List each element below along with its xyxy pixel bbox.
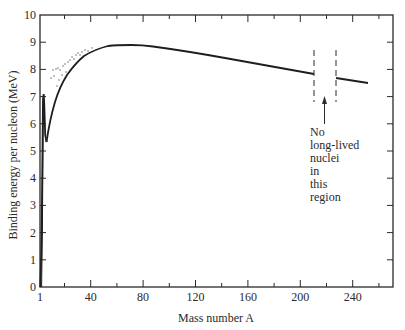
no-nuclei-region-markers — [314, 50, 336, 102]
x-tick-label: 120 — [187, 290, 205, 304]
y-tick-label: 9 — [30, 35, 36, 49]
y-tick-label: 0 — [30, 280, 36, 294]
x-tick-label: 40 — [85, 290, 97, 304]
y-tick-label: 8 — [30, 62, 36, 76]
annotation-line: No — [310, 125, 325, 139]
x-tick-label: 240 — [344, 290, 362, 304]
x-tick-label: 200 — [291, 290, 309, 304]
y-axis-title: Binding energy per nucleon (MeV) — [6, 70, 20, 239]
annotation-line: this — [310, 177, 328, 191]
annotation-line: nuclei — [310, 151, 340, 165]
x-axis-title: Mass number A — [178, 311, 254, 325]
x-tick-label: 160 — [239, 290, 257, 304]
y-tick-label: 4 — [30, 171, 36, 185]
scatter-points — [50, 47, 92, 86]
curve-main — [47, 45, 315, 142]
x-tick-label: 1 — [37, 290, 43, 304]
binding-energy-chart: 0 1 2 3 4 5 6 7 8 9 10 1 40 80 120 160 2… — [0, 0, 405, 330]
y-tick-label: 7 — [30, 90, 36, 104]
x-tick-labels: 1 40 80 120 160 200 240 — [37, 290, 362, 304]
annotation-text: No long-lived nuclei in this region — [310, 125, 359, 204]
y-tick-label: 3 — [30, 198, 36, 212]
y-tick-label: 1 — [30, 253, 36, 267]
annotation-line: in — [310, 164, 319, 178]
y-tick-label: 5 — [30, 144, 36, 158]
y-tick-label: 2 — [30, 226, 36, 240]
y-tick-label: 6 — [30, 117, 36, 131]
annotation-line: region — [310, 190, 341, 204]
curve-heavy — [336, 78, 368, 83]
y-tick-labels: 0 1 2 3 4 5 6 7 8 9 10 — [24, 8, 36, 294]
annotation-line: long-lived — [310, 138, 359, 152]
arrow-icon — [322, 96, 327, 124]
y-tick-label: 10 — [24, 8, 36, 22]
x-tick-label: 80 — [137, 290, 149, 304]
